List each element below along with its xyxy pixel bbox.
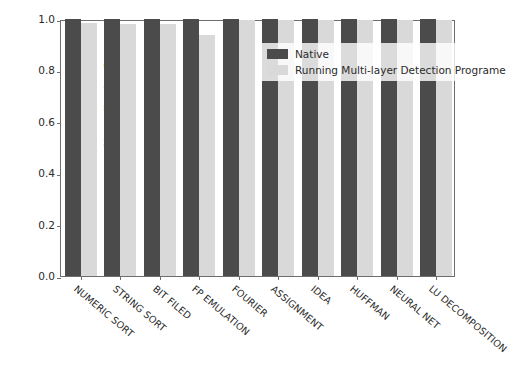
chart-legend: NativeRunning Multi-layer Detection Prog… <box>261 43 512 81</box>
legend-item: Running Multi-layer Detection Programe <box>267 63 506 77</box>
x-tick-mark <box>436 276 437 280</box>
x-tick-label: FOURIER <box>230 283 270 319</box>
x-tick-mark <box>239 276 240 280</box>
y-tick-label: 0.0 <box>38 270 55 282</box>
bar-native <box>104 19 120 276</box>
x-tick-label: LU DECOMPOSITION <box>427 283 509 355</box>
bar-native <box>65 19 81 276</box>
x-tick-mark <box>160 276 161 280</box>
plot-area: Normalization Score 0.00.20.40.60.81.0 N… <box>60 20 455 277</box>
legend-label: Native <box>295 48 329 60</box>
y-tick-mark <box>57 123 61 124</box>
y-tick-label: 0.4 <box>38 167 55 179</box>
y-tick-label: 0.8 <box>38 64 55 76</box>
bar-detector <box>160 24 176 276</box>
x-tick-label: IDEA <box>309 283 334 306</box>
bar-native <box>223 19 239 276</box>
x-tick-mark <box>199 276 200 280</box>
legend-item: Native <box>267 47 506 61</box>
legend-swatch-native <box>267 49 288 59</box>
legend-label: Running Multi-layer Detection Programe <box>295 64 506 76</box>
x-tick-label: HUFFMAN <box>348 283 392 322</box>
bar-detector <box>239 20 255 276</box>
x-tick-mark <box>318 276 319 280</box>
legend-swatch-detector <box>267 65 288 75</box>
bar-native <box>144 19 160 276</box>
y-tick-mark <box>57 21 61 22</box>
y-tick-mark <box>57 175 61 176</box>
x-tick-mark <box>120 276 121 280</box>
bar-detector <box>199 35 215 276</box>
y-tick-mark <box>57 278 61 279</box>
x-tick-mark <box>278 276 279 280</box>
y-tick-mark <box>57 226 61 227</box>
bar-native <box>183 19 199 276</box>
x-tick-mark <box>81 276 82 280</box>
bar-detector <box>120 24 136 276</box>
x-tick-mark <box>397 276 398 280</box>
y-tick-label: 1.0 <box>38 13 55 25</box>
y-tick-label: 0.6 <box>38 116 55 128</box>
y-tick-label: 0.2 <box>38 219 55 231</box>
y-tick-mark <box>57 72 61 73</box>
x-tick-mark <box>357 276 358 280</box>
bar-detector <box>81 23 97 276</box>
